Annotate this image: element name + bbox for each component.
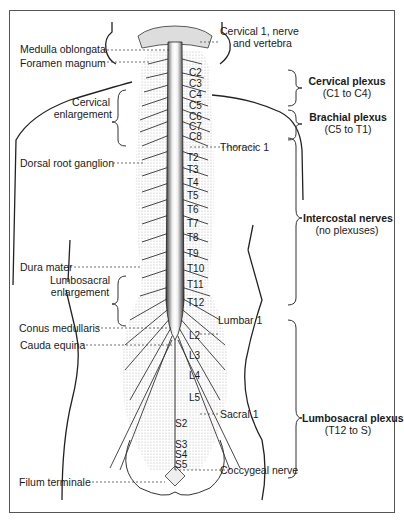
level-T4: T4 [187,177,199,188]
level-L4: L4 [189,370,200,381]
level-L5: L5 [189,392,200,403]
plexus-intercostal-name: Intercostal nerves [303,212,393,224]
level-T5: T5 [187,190,199,201]
plexus-cervical-name: Cervical plexus [308,75,385,87]
level-C4: C4 [189,89,202,100]
label-filum-terminale: Filum terminale [19,476,91,488]
plexus-cervical-range: (C1 to C4) [303,87,391,99]
plexus-brachial-range: (C5 to T1) [303,123,393,135]
level-T10: T10 [187,263,204,274]
level-S2: S2 [175,418,187,429]
label-dura-mater: Dura mater [20,261,73,273]
label-cervical-enlargement-line2: enlargement [40,108,112,120]
plexus-intercostal-range: (no plexuses) [303,224,391,236]
plexus-lumbosacral: Lumbosacral plexus (T12 to S) [302,412,394,436]
label-cervical-enlargement-line1: Cervical [40,96,110,108]
level-C2: C2 [189,67,202,78]
level-T6: T6 [187,204,199,215]
level-C5: C5 [189,100,202,111]
label-coccygeal-nerve: Coccygeal nerve [220,464,298,476]
label-sacral-1: Sacral 1 [220,408,259,420]
level-L3: L3 [189,350,200,361]
plexus-intercostal: Intercostal nerves (no plexuses) [303,212,391,236]
level-C8: C8 [189,131,202,142]
label-dorsal-root-ganglion: Dorsal root ganglion [20,157,114,169]
label-foramen-magnum: Foramen magnum [20,57,106,69]
level-T7: T7 [187,218,199,229]
level-T8: T8 [187,232,199,243]
level-T2: T2 [187,152,199,163]
plexus-lumbosacral-name: Lumbosacral plexus [302,412,404,424]
plexus-brachial: Brachial plexus (C5 to T1) [303,111,393,135]
label-medulla-oblongata: Medulla oblongata [20,43,106,55]
label-cauda-equina: Cauda equina [20,339,85,351]
level-C3: C3 [189,78,202,89]
label-lumbar-1: Lumbar 1 [218,314,262,326]
label-thoracic-1: Thoracic 1 [220,141,269,153]
label-conus-medullaris: Conus medullaris [19,322,100,334]
level-S5: S5 [175,459,187,470]
plexus-brachial-name: Brachial plexus [309,111,387,123]
label-lumbosacral-enlargement-line2: enlargement [45,286,115,298]
level-T12: T12 [187,297,204,308]
label-cervical-1-line1: Cervical 1, nerve [220,25,299,37]
level-T3: T3 [187,164,199,175]
plexus-lumbosacral-range: (T12 to S) [302,424,394,436]
plexus-cervical: Cervical plexus (C1 to C4) [303,75,391,99]
level-T9: T9 [187,248,199,259]
label-lumbosacral-enlargement-line1: Lumbosacral [45,274,115,286]
level-T11: T11 [187,279,204,290]
level-L2: L2 [189,330,200,341]
label-cervical-1-line2: and vertebra [233,37,292,49]
